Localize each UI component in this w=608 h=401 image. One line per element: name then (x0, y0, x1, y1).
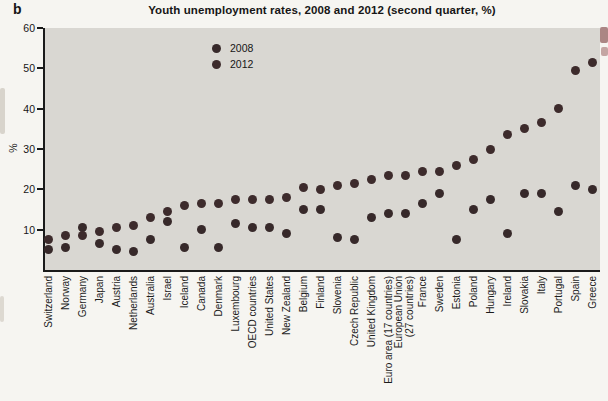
y-axis-tick-label: 30 (8, 143, 35, 155)
x-axis-label: United States (264, 276, 275, 336)
data-point-2008 (61, 243, 70, 252)
data-point-2012 (129, 221, 138, 230)
data-point-2012 (333, 181, 342, 190)
data-point-2008 (95, 239, 104, 248)
data-point-2012 (520, 124, 529, 133)
data-point-2008 (163, 217, 172, 226)
x-axis-label: Slovenia (332, 276, 343, 314)
data-point-2012 (197, 199, 206, 208)
x-axis (43, 270, 600, 272)
y-axis-tick (37, 27, 43, 29)
data-point-2012 (163, 207, 172, 216)
data-point-2008 (350, 235, 359, 244)
data-point-2008 (588, 185, 597, 194)
data-point-2008 (401, 209, 410, 218)
data-point-2012 (367, 175, 376, 184)
scan-artifact (601, 47, 608, 56)
y-axis-tick-label: 10 (8, 224, 35, 236)
x-axis-label: Sweden (434, 276, 445, 312)
x-axis-label: Slovakia (519, 276, 530, 314)
data-point-2008 (486, 195, 495, 204)
y-axis-tick-label: 40 (8, 103, 35, 115)
x-axis-label: Canada (196, 276, 207, 311)
data-point-2012 (384, 171, 393, 180)
x-axis-label: Switzerland (43, 276, 54, 328)
legend-label-2012: 2012 (230, 58, 253, 70)
x-axis-label: Australia (145, 276, 156, 315)
x-axis-label: Hungary (485, 276, 496, 314)
data-point-2008 (129, 247, 138, 256)
data-point-2012 (350, 179, 359, 188)
x-axis-label: Netherlands (128, 276, 139, 330)
x-axis-label: New Zealand (281, 276, 292, 335)
data-point-2008 (333, 233, 342, 242)
data-point-2008 (44, 245, 53, 254)
y-axis-tick (37, 229, 43, 231)
data-point-2008 (214, 243, 223, 252)
data-point-2008 (146, 235, 155, 244)
data-point-2008 (571, 181, 580, 190)
data-point-2012 (146, 213, 155, 222)
data-point-2008 (452, 235, 461, 244)
legend-dot-2012-icon (212, 60, 221, 69)
x-axis-label: Estonia (451, 276, 462, 309)
x-axis-label: Ireland (502, 276, 513, 307)
data-point-2008 (503, 229, 512, 238)
chart-title: Youth unemployment rates, 2008 and 2012 … (44, 4, 600, 16)
data-point-2012 (503, 130, 512, 139)
x-axis-label: Denmark (213, 276, 224, 317)
scan-artifact (600, 27, 608, 43)
data-point-2008 (435, 189, 444, 198)
data-point-2012 (401, 171, 410, 180)
x-axis-label: Greece (587, 276, 598, 309)
y-axis-tick-label: 20 (8, 183, 35, 195)
data-point-2008 (112, 245, 121, 254)
y-axis-tick (37, 188, 43, 190)
data-point-2008 (299, 205, 308, 214)
data-point-2012 (248, 195, 257, 204)
y-axis-tick (37, 67, 43, 69)
x-axis-label: Belgium (298, 276, 309, 312)
data-point-2012 (95, 227, 104, 236)
data-point-2012 (418, 167, 427, 176)
data-point-2012 (299, 183, 308, 192)
x-axis-label: Japan (94, 276, 105, 303)
x-axis-label: Luxembourg (230, 276, 241, 332)
data-point-2008 (282, 229, 291, 238)
data-point-2012 (588, 58, 597, 67)
x-axis-label: France (417, 276, 428, 307)
data-point-2008 (265, 223, 274, 232)
data-point-2008 (197, 225, 206, 234)
data-point-2008 (520, 189, 529, 198)
x-axis-label: Portugal (553, 276, 564, 313)
data-point-2008 (384, 209, 393, 218)
legend-item-2012: 2012 (212, 56, 253, 72)
x-axis-label: Israel (162, 276, 173, 300)
data-point-2012 (61, 231, 70, 240)
data-point-2012 (571, 66, 580, 75)
data-point-2008 (554, 207, 563, 216)
data-point-2012 (316, 185, 325, 194)
data-point-2008 (316, 205, 325, 214)
data-point-2012 (452, 161, 461, 170)
data-point-2012 (486, 145, 495, 154)
data-point-2012 (231, 195, 240, 204)
data-point-2008 (537, 189, 546, 198)
y-axis-tick-label: 60 (8, 22, 35, 34)
legend-label-2008: 2008 (230, 42, 253, 54)
y-axis-tick (37, 108, 43, 110)
legend: 2008 2012 (212, 40, 253, 72)
x-axis-label: Norway (60, 276, 71, 310)
x-axis-label: European Union (27 countries) (393, 276, 415, 348)
data-point-2012 (554, 104, 563, 113)
x-axis-label: Iceland (179, 276, 190, 308)
data-point-2008 (248, 223, 257, 232)
data-point-2008 (231, 219, 240, 228)
data-point-2012 (537, 118, 546, 127)
y-axis-tick (37, 148, 43, 150)
plot-area (45, 28, 600, 270)
data-point-2012 (180, 201, 189, 210)
legend-item-2008: 2008 (212, 40, 253, 56)
x-axis-label: Italy (536, 276, 547, 294)
legend-dot-2008-icon (212, 44, 221, 53)
